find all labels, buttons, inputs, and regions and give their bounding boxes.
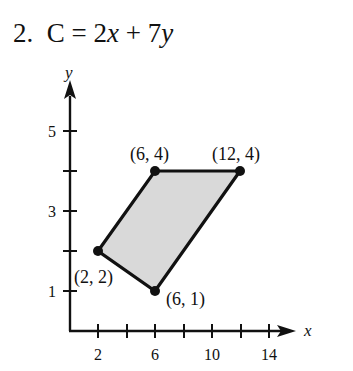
x-tick-label-6: 6	[151, 346, 159, 363]
vertex-2-2	[93, 246, 103, 256]
y-tick-label-3: 3	[48, 203, 56, 220]
vertex-label-12-4: (12, 4)	[212, 144, 260, 165]
x-axis-label: x	[303, 321, 312, 340]
vertex-12-4	[235, 166, 245, 176]
vertex-label-6-1: (6, 1)	[166, 289, 205, 310]
feasible-region	[98, 171, 240, 291]
vertex-6-1	[150, 286, 160, 296]
vertex-label-2-2: (2, 2)	[74, 267, 113, 288]
x-tick-label-14: 14	[261, 346, 277, 363]
vertex-label-6-4: (6, 4)	[130, 144, 169, 165]
y-tick-label-5: 5	[48, 123, 56, 140]
x-tick-label-10: 10	[204, 346, 220, 363]
vertex-6-4	[150, 166, 160, 176]
y-axis-label: y	[63, 63, 73, 82]
y-tick-label-1: 1	[48, 283, 56, 300]
feasible-region-graph: y x 5 3 1 2 6 10 14 (2, 2) (6, 4) (12, 4…	[0, 0, 353, 371]
x-tick-label-2: 2	[94, 346, 102, 363]
